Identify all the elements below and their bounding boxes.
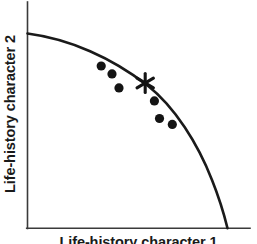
data-point xyxy=(97,61,106,70)
data-point xyxy=(107,69,116,78)
tradeoff-curve xyxy=(28,34,228,229)
figure-container: Life-history character 2 Life-history ch… xyxy=(0,0,257,244)
data-point-group xyxy=(97,61,177,129)
y-axis-label: Life-history character 2 xyxy=(0,0,20,228)
data-point xyxy=(150,96,159,105)
data-point xyxy=(168,120,177,129)
data-point xyxy=(114,83,123,92)
x-axis-label: Life-history character 1 xyxy=(27,234,250,244)
plot-area xyxy=(0,0,257,244)
data-point xyxy=(155,114,164,123)
y-axis-label-text: Life-history character 2 xyxy=(2,35,18,193)
